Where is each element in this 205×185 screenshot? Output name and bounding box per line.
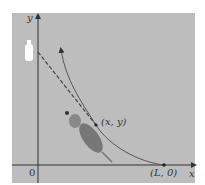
point-xy (94, 123, 97, 126)
pursuit-curve (61, 50, 163, 165)
y-axis-label: y (27, 12, 33, 23)
origin-label: 0 (29, 167, 35, 178)
pursuit-diagram (0, 0, 205, 185)
point-L0-label: (L, 0) (150, 167, 177, 178)
x-axis-label: x (189, 168, 195, 179)
bottle-icon (25, 40, 33, 61)
point-xy-label: (x, y) (101, 116, 126, 127)
